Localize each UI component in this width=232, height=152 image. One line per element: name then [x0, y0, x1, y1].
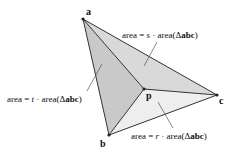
- vertex-b-label: b: [100, 138, 106, 149]
- vertex-p-label: p: [146, 90, 152, 101]
- vertex-c-label: c: [219, 95, 224, 106]
- annotation-t: area = t · area(Δabc): [7, 94, 82, 104]
- annotation-s: area = s · area(Δabc): [122, 30, 198, 40]
- annotation-r: area = r · area(Δabc): [131, 131, 207, 141]
- barycentric-diagram: a b c p area = s · area(Δabc) area = t ·…: [0, 0, 232, 152]
- vertex-a-label: a: [86, 6, 91, 17]
- vertex-b-dot: [107, 133, 110, 136]
- vertex-a-dot: [81, 17, 84, 20]
